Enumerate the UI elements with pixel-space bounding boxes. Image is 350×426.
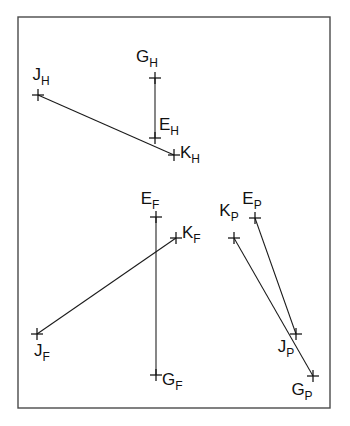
marker-layer	[31, 72, 319, 382]
segment-E_P-J_P	[255, 218, 296, 334]
marker-G_P	[307, 370, 319, 382]
label-subscript: F	[193, 232, 200, 246]
label-base: G	[162, 370, 175, 389]
point-diagram: GHJHEHKHEFKFJFGFEPKPJPGP	[0, 0, 350, 426]
label-subscript: P	[286, 346, 294, 360]
label-base: E	[141, 189, 152, 208]
marker-K_F	[170, 232, 182, 244]
label-base: K	[219, 201, 231, 220]
label-base: J	[278, 337, 287, 356]
label-subscript: P	[254, 198, 262, 212]
label-base: G	[291, 380, 304, 399]
point-label-J_H: JH	[32, 65, 49, 88]
label-subscript: F	[43, 350, 50, 364]
label-base: K	[180, 143, 192, 162]
segment-K_P-G_P	[234, 238, 313, 376]
segment-layer	[37, 78, 313, 376]
segment-J_H-K_H	[38, 95, 174, 155]
point-label-E_F: EF	[141, 189, 160, 212]
point-label-G_F: GF	[162, 370, 183, 393]
marker-E_F	[150, 211, 162, 223]
point-label-J_P: JP	[278, 337, 295, 360]
point-label-G_P: GP	[291, 380, 312, 403]
marker-K_P	[228, 232, 240, 244]
point-label-G_H: GH	[136, 47, 158, 70]
point-label-K_H: KH	[180, 143, 200, 166]
marker-K_H	[168, 149, 180, 161]
point-label-J_F: JF	[34, 341, 50, 364]
marker-E_P	[249, 212, 261, 224]
point-label-K_F: KF	[182, 223, 201, 246]
marker-J_H	[32, 89, 44, 101]
marker-G_F	[150, 369, 162, 381]
label-layer: GHJHEHKHEFKFJFGFEPKPJPGP	[32, 47, 312, 403]
label-subscript: H	[149, 56, 158, 70]
point-label-E_H: EH	[159, 115, 179, 138]
label-base: J	[32, 65, 41, 84]
marker-G_H	[149, 72, 161, 84]
point-label-K_P: KP	[219, 201, 238, 224]
label-subscript: P	[231, 210, 239, 224]
label-subscript: P	[305, 389, 313, 403]
label-base: J	[34, 341, 43, 360]
label-base: E	[159, 115, 170, 134]
label-base: E	[242, 189, 253, 208]
marker-J_F	[31, 328, 43, 340]
label-base: K	[182, 223, 194, 242]
segment-J_F-K_F	[37, 238, 176, 334]
label-subscript: F	[152, 198, 159, 212]
label-subscript: H	[41, 74, 50, 88]
label-subscript: H	[191, 152, 200, 166]
label-subscript: F	[175, 379, 182, 393]
label-subscript: H	[170, 124, 179, 138]
point-label-E_P: EP	[242, 189, 261, 212]
label-base: G	[136, 47, 149, 66]
